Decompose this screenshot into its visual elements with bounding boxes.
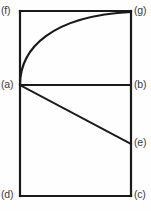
- concave-curve-ag: [20, 12, 131, 85]
- vertex-label-b: (b): [134, 79, 146, 90]
- vertex-label-f: (f): [1, 5, 10, 16]
- vertex-label-d: (d): [1, 189, 13, 200]
- diagram-canvas: [0, 0, 151, 211]
- vertex-label-e: (e): [134, 137, 146, 148]
- vertex-label-c: (c): [134, 189, 146, 200]
- descending-chord-ae: [20, 85, 131, 144]
- figure-container: (f) (g) (a) (b) (e) (d) (c): [0, 0, 151, 211]
- vertex-label-a: (a): [1, 79, 13, 90]
- vertex-label-g: (g): [134, 5, 146, 16]
